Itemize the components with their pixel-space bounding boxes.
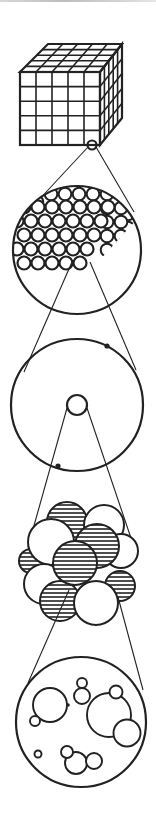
nucleon-bubbles-icon: [16, 657, 146, 787]
atom-icon: [11, 339, 143, 471]
proton-icon: [53, 541, 97, 585]
scales-of-matter-diagram: [0, 0, 156, 833]
cube-lattice-icon: [20, 44, 122, 150]
neutron-icon: [74, 581, 118, 625]
nucleus-marker: [67, 395, 87, 415]
electron-icon: [55, 463, 60, 468]
atom-lattice-icon: [11, 186, 142, 314]
electron-icon: [104, 343, 109, 348]
